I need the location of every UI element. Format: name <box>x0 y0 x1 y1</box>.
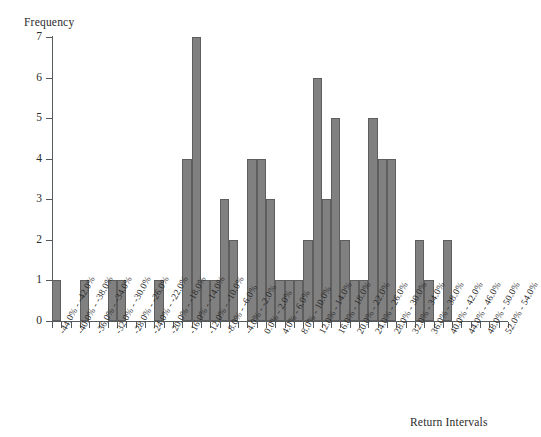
x-axis-tick <box>126 322 127 328</box>
histogram-bar <box>415 240 424 321</box>
x-axis-tick <box>220 322 221 328</box>
x-axis-tick <box>229 322 230 328</box>
x-axis-tick <box>406 322 407 328</box>
x-axis-tick <box>415 322 416 328</box>
x-axis-tick <box>173 322 174 328</box>
y-axis-tick-label: 7 <box>16 31 42 43</box>
x-axis-tick <box>313 322 314 328</box>
histogram-bar <box>275 280 284 321</box>
histogram-bar <box>294 280 303 321</box>
x-axis-tick <box>257 322 258 328</box>
x-axis-tick <box>99 322 100 328</box>
y-axis-tick-label-wrap: 0 <box>10 321 42 322</box>
histogram-bar <box>387 159 396 321</box>
x-axis-tick <box>247 322 248 328</box>
histogram-bar <box>182 159 191 321</box>
y-axis-tick-label-wrap: 5 <box>10 118 42 119</box>
histogram-bar <box>247 159 256 321</box>
histogram-bar <box>117 280 126 321</box>
x-axis-tick <box>322 322 323 328</box>
histogram-bar <box>368 118 377 321</box>
y-axis-tick-label-wrap: 4 <box>10 159 42 160</box>
x-axis-tick <box>182 322 183 328</box>
x-axis-tick <box>192 322 193 328</box>
x-axis-tick <box>359 322 360 328</box>
x-axis-tick <box>480 322 481 328</box>
x-axis-tick <box>61 322 62 328</box>
x-axis-tick <box>303 322 304 328</box>
x-axis-tick <box>164 322 165 328</box>
x-axis-tick <box>424 322 425 328</box>
x-axis-tick <box>461 322 462 328</box>
y-axis-tick-label: 2 <box>16 234 42 246</box>
x-axis-tick <box>452 322 453 328</box>
y-axis-tick-label: 1 <box>16 274 42 286</box>
histogram-bar <box>285 280 294 321</box>
histogram-bar <box>192 37 201 321</box>
x-axis-title: Return Intervals <box>410 416 488 428</box>
x-axis-tick <box>285 322 286 328</box>
histogram-bar <box>303 240 312 321</box>
histogram-bar <box>340 240 349 321</box>
y-axis-tick-label-wrap: 3 <box>10 199 42 200</box>
histogram-bar <box>220 199 229 321</box>
x-axis-tick <box>108 322 109 328</box>
histogram-bar <box>266 199 275 321</box>
y-axis-title: Frequency <box>24 16 74 28</box>
x-axis-line <box>52 321 508 322</box>
histogram-bar <box>322 199 331 321</box>
x-axis-tick <box>266 322 267 328</box>
x-axis-tick <box>396 322 397 328</box>
x-axis-tick <box>340 322 341 328</box>
x-axis-tick <box>508 322 509 328</box>
histogram-bar <box>331 118 340 321</box>
histogram-bar <box>229 240 238 321</box>
x-axis-tick-label: 52.0% - 54.0% <box>504 281 540 336</box>
histogram-bar <box>201 280 210 321</box>
histogram-bar <box>108 280 117 321</box>
x-axis-tick <box>154 322 155 328</box>
y-axis-tick-label-wrap: 7 <box>10 37 42 38</box>
x-axis-tick <box>52 322 53 328</box>
y-axis-tick-label: 0 <box>16 315 42 327</box>
histogram-bar <box>80 280 89 321</box>
histogram-bar <box>378 159 387 321</box>
x-axis-tick <box>80 322 81 328</box>
x-axis-tick <box>443 322 444 328</box>
histogram-bar <box>359 280 368 321</box>
y-axis-tick-label: 5 <box>16 112 42 124</box>
x-axis-tick <box>387 322 388 328</box>
x-axis-tick <box>117 322 118 328</box>
x-axis-tick <box>489 322 490 328</box>
histogram-bar <box>443 240 452 321</box>
x-axis-tick <box>350 322 351 328</box>
x-axis-tick <box>71 322 72 328</box>
x-axis-tick <box>499 322 500 328</box>
y-axis-tick-label: 6 <box>16 72 42 84</box>
x-axis-tick <box>471 322 472 328</box>
histogram-bar <box>52 280 61 321</box>
x-axis-tick <box>294 322 295 328</box>
x-axis-tick <box>145 322 146 328</box>
x-axis-tick <box>238 322 239 328</box>
x-axis-tick <box>89 322 90 328</box>
histogram-bar <box>350 280 359 321</box>
histogram-bar <box>257 159 266 321</box>
y-axis-tick-label: 4 <box>16 153 42 165</box>
histogram-bar <box>313 78 322 321</box>
x-axis-tick <box>331 322 332 328</box>
bars-layer <box>52 37 508 321</box>
x-axis-tick <box>136 322 137 328</box>
y-axis-tick-label-wrap: 2 <box>10 240 42 241</box>
y-axis-tick-label: 3 <box>16 193 42 205</box>
x-axis-tick <box>378 322 379 328</box>
x-axis-tick <box>210 322 211 328</box>
x-axis-tick <box>368 322 369 328</box>
x-axis-tick <box>201 322 202 328</box>
y-axis-tick-label-wrap: 1 <box>10 280 42 281</box>
y-axis-tick-label-wrap: 6 <box>10 78 42 79</box>
histogram-bar <box>210 280 219 321</box>
x-axis-tick <box>275 322 276 328</box>
histogram-bar <box>424 280 433 321</box>
